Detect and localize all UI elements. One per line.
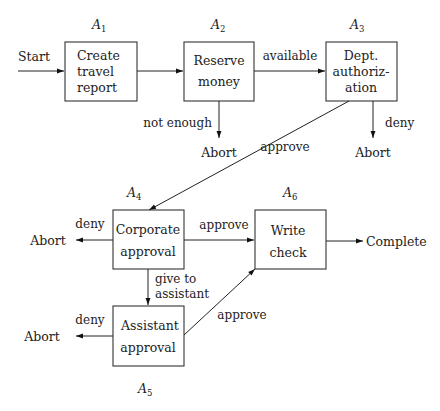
- node-a2-line-2: money: [198, 74, 241, 89]
- node-a6-id: A6: [282, 185, 297, 202]
- node-a3: A3 Dept. authoriz- ation: [326, 17, 397, 101]
- workflow-diagram: Start A1 Create travel report A2 Reserve…: [0, 0, 440, 411]
- node-a4-line-1: Corporate: [116, 222, 180, 237]
- edge-label-not-enough: not enough: [143, 116, 212, 130]
- node-a3-line-2: authoriz-: [333, 64, 390, 79]
- node-a5-line-2: approval: [120, 340, 175, 355]
- node-a4-box: [113, 210, 184, 269]
- edge-label-assistant: assistant: [155, 287, 209, 301]
- node-a2-line-1: Reserve: [193, 53, 244, 68]
- node-a1-line-2: travel: [77, 64, 114, 79]
- edge-label-approve-a5: approve: [217, 308, 266, 322]
- node-a1: A1 Create travel report: [65, 17, 137, 101]
- node-a2-id: A2: [210, 17, 225, 34]
- node-a5: Assistant approval A5: [113, 306, 184, 398]
- node-a4: A4 Corporate approval: [113, 185, 184, 269]
- node-a6-line-1: Write: [271, 223, 306, 238]
- start-label: Start: [18, 49, 50, 64]
- node-a3-id: A3: [349, 17, 364, 34]
- node-a4-line-2: approval: [120, 244, 175, 259]
- node-a3-line-1: Dept.: [344, 48, 378, 63]
- node-a6: A6 Write check: [255, 185, 326, 269]
- complete-terminal: Complete: [366, 234, 427, 249]
- abort-terminal-a2: Abort: [200, 145, 237, 160]
- edge-label-available: available: [263, 49, 318, 63]
- edge-label-approve-a4: approve: [199, 218, 248, 232]
- node-a1-line-1: Create: [77, 48, 120, 63]
- edge-label-deny-a5: deny: [75, 313, 105, 327]
- edge-label-give-to: give to: [155, 272, 196, 286]
- edge-label-deny-a3: deny: [385, 116, 415, 130]
- node-a1-line-3: report: [77, 80, 117, 95]
- node-a3-line-3: ation: [345, 80, 377, 95]
- node-a6-box: [255, 210, 326, 269]
- abort-terminal-a4: Abort: [29, 233, 66, 248]
- node-a2-box: [184, 42, 254, 101]
- node-a5-id: A5: [137, 381, 152, 398]
- node-a1-id: A1: [91, 17, 106, 34]
- node-a5-box: [113, 306, 184, 366]
- edge-label-approve-a3: approve: [260, 140, 309, 154]
- node-a4-id: A4: [126, 185, 141, 202]
- abort-terminal-a5: Abort: [23, 329, 60, 344]
- node-a5-line-1: Assistant: [120, 318, 179, 333]
- node-a6-line-2: check: [269, 245, 306, 260]
- node-a2: A2 Reserve money: [184, 17, 254, 101]
- edge-label-deny-a4: deny: [75, 217, 105, 231]
- abort-terminal-a3: Abort: [354, 145, 391, 160]
